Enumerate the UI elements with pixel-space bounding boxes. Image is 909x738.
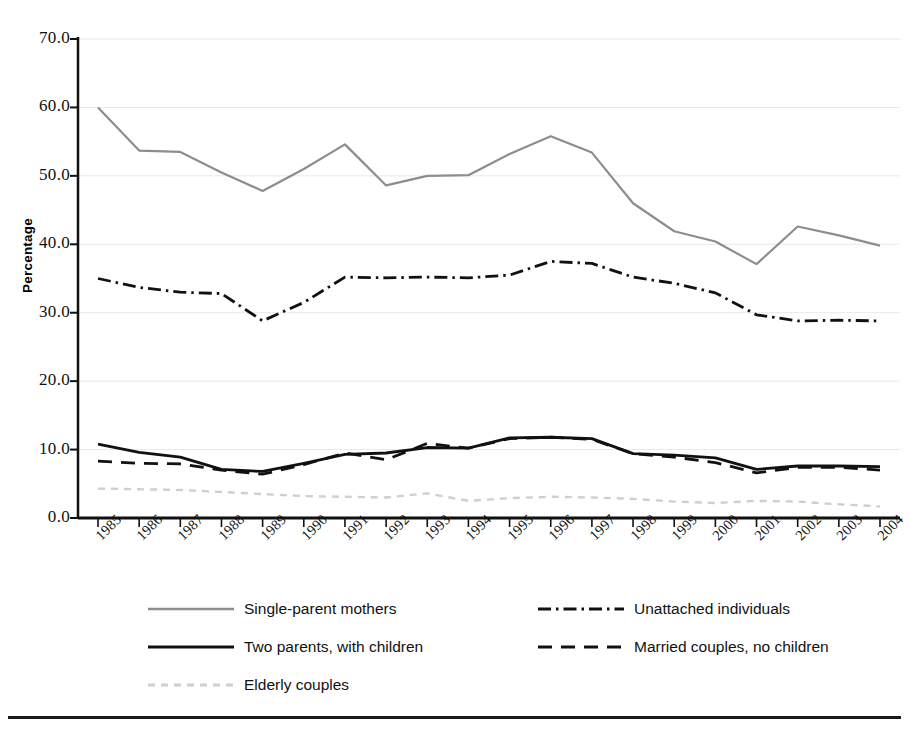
legend-swatch-icon: [538, 601, 624, 617]
x-tick-label: 1989: [257, 511, 290, 544]
x-tick-label: 1992: [380, 511, 413, 544]
legend-row: Elderly couples: [148, 668, 888, 702]
legend-item[interactable]: Single-parent mothers: [148, 600, 397, 618]
legend-swatch-icon: [148, 601, 234, 617]
x-axis-tick-labels: 1985198619871988198919901991199219931994…: [0, 0, 909, 600]
x-tick-label: 1987: [174, 511, 207, 544]
x-tick-label: 2000: [709, 511, 742, 544]
chart-figure: 70.060.050.040.030.020.010.00.0 Percenta…: [0, 0, 909, 738]
x-tick-label: 1993: [421, 511, 454, 544]
x-tick-label: 1990: [298, 511, 331, 544]
x-tick-label: 1997: [586, 511, 619, 544]
legend-item[interactable]: Elderly couples: [148, 676, 349, 694]
legend-row: Single-parent mothersUnattached individu…: [148, 592, 888, 626]
x-tick-label: 1986: [133, 511, 166, 544]
legend-item[interactable]: Two parents, with children: [148, 638, 423, 656]
x-tick-label: 2004: [874, 511, 907, 544]
x-tick-label: 1985: [92, 511, 125, 544]
legend-label: Married couples, no children: [634, 638, 829, 656]
x-tick-label: 1988: [215, 511, 248, 544]
legend-swatch-icon: [148, 677, 234, 693]
x-tick-label: 1998: [627, 511, 660, 544]
x-tick-label: 2003: [833, 511, 866, 544]
x-tick-label: 1991: [339, 511, 372, 544]
legend-item[interactable]: Married couples, no children: [538, 638, 829, 656]
legend-label: Two parents, with children: [244, 638, 423, 656]
legend-label: Single-parent mothers: [244, 600, 397, 618]
x-tick-label: 2002: [792, 511, 825, 544]
x-tick-label: 1999: [668, 511, 701, 544]
legend-item[interactable]: Unattached individuals: [538, 600, 790, 618]
legend-label: Unattached individuals: [634, 600, 790, 618]
x-tick-label: 1994: [462, 511, 495, 544]
plot-area: 70.060.050.040.030.020.010.00.0 Percenta…: [0, 0, 909, 560]
legend-label: Elderly couples: [244, 676, 349, 694]
x-tick-label: 2001: [751, 511, 784, 544]
footer-divider: [8, 716, 901, 719]
legend-swatch-icon: [148, 639, 234, 655]
chart-legend: Single-parent mothersUnattached individu…: [148, 592, 888, 702]
x-tick-label: 1995: [504, 511, 537, 544]
legend-swatch-icon: [538, 639, 624, 655]
x-tick-label: 1996: [545, 511, 578, 544]
legend-row: Two parents, with childrenMarried couple…: [148, 630, 888, 664]
